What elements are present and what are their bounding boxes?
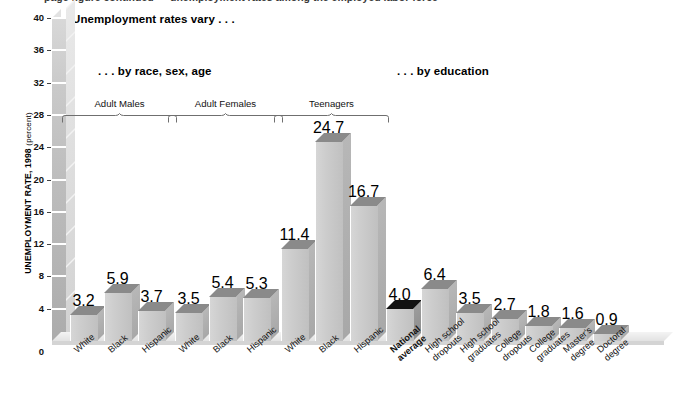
y-axis-tick-mark bbox=[47, 244, 51, 245]
group-bracket-adult-males bbox=[62, 113, 177, 123]
y-axis-notch bbox=[52, 179, 66, 181]
y-axis-tick-label: 12 bbox=[14, 238, 44, 249]
y-axis-tick-mark bbox=[47, 180, 51, 181]
y-axis-notch bbox=[52, 146, 66, 148]
bar-black-7 bbox=[315, 133, 342, 341]
y-axis-notch bbox=[52, 82, 66, 84]
bar-front-face bbox=[315, 142, 343, 341]
y-axis-tick-mark bbox=[47, 212, 51, 213]
y-axis-tick-label: 20 bbox=[14, 174, 44, 185]
y-axis-tick-mark bbox=[47, 276, 51, 277]
y-axis-tick-mark bbox=[47, 50, 51, 51]
bar-value-label: 3.2 bbox=[57, 292, 110, 310]
y-axis-tick-label: 16 bbox=[14, 206, 44, 217]
bar-value-label: 5.9 bbox=[91, 270, 144, 288]
bar-value-label: 6.4 bbox=[408, 266, 461, 284]
y-axis-notch bbox=[52, 211, 66, 213]
y-axis-notch bbox=[52, 49, 66, 51]
subtitle-by-education: . . . by education bbox=[397, 65, 489, 77]
cropped-header-text: page figure continued — unemployment rat… bbox=[44, 0, 644, 5]
y-axis-tick-mark bbox=[47, 18, 51, 19]
y-axis-tick-label: 4 bbox=[14, 303, 44, 314]
unemployment-bar-chart: page figure continued — unemployment rat… bbox=[0, 0, 677, 411]
y-axis-tick-label: 28 bbox=[14, 109, 44, 120]
y-axis-tick-mark bbox=[47, 115, 51, 116]
y-axis-notch bbox=[52, 243, 66, 245]
group-label-adult-males: Adult Males bbox=[62, 98, 177, 109]
bar-value-label: 11.4 bbox=[268, 226, 321, 244]
y-axis-tick-label: 8 bbox=[14, 270, 44, 281]
y-axis-tick-mark bbox=[47, 147, 51, 148]
subtitle-by-race-sex-age: . . . by race, sex, age bbox=[98, 65, 212, 77]
y-axis-tick-mark bbox=[47, 83, 51, 84]
bar-front-face bbox=[209, 297, 237, 341]
group-label-adult-females: Adult Females bbox=[168, 98, 283, 109]
y-axis-tick-label: 24 bbox=[14, 141, 44, 152]
bar-black-4 bbox=[209, 288, 236, 341]
bar-value-label: 4.0 bbox=[373, 286, 426, 304]
y-axis-tick-label: 0 bbox=[14, 346, 44, 357]
bar-white-6 bbox=[281, 240, 308, 341]
bar-front-face bbox=[281, 249, 309, 341]
bar-front-face bbox=[350, 206, 378, 341]
bar-value-label: 3.5 bbox=[162, 290, 215, 308]
y-axis-tick-label: 36 bbox=[14, 44, 44, 55]
y-axis-tick-label: 40 bbox=[14, 12, 44, 23]
y-axis-notch bbox=[52, 17, 66, 19]
y-axis-tick-mark bbox=[47, 309, 51, 310]
chart-title: Unemployment rates vary . . . bbox=[72, 13, 235, 25]
bar-value-label: 16.7 bbox=[337, 183, 390, 201]
group-label-teenagers: Teenagers bbox=[274, 98, 389, 109]
y-axis-notch bbox=[52, 275, 66, 277]
bar-hispanic-8 bbox=[350, 197, 377, 341]
group-bracket-adult-females bbox=[168, 113, 283, 123]
group-bracket-teenagers bbox=[274, 113, 389, 123]
bar-value-label: 5.3 bbox=[230, 275, 283, 293]
bar-side-face bbox=[377, 197, 386, 341]
y-axis-tick-label: 32 bbox=[14, 77, 44, 88]
